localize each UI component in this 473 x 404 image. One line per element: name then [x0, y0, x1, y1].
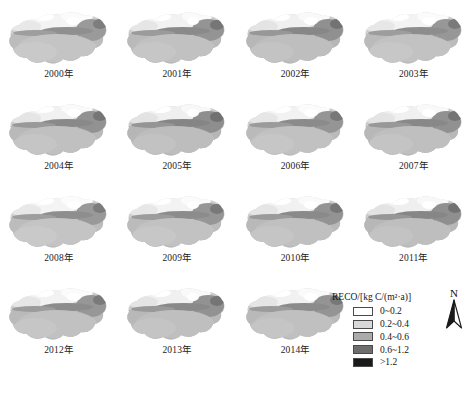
map-thumbnail [5, 184, 113, 252]
legend-label: 0.2~0.4 [380, 319, 409, 329]
map-year-label: 2010年 [281, 253, 311, 264]
map-thumbnail [123, 92, 231, 160]
legend-class-list: 0~0.2 0.2~0.4 0.4~0.6 0.6~1.2 >1.2 [332, 306, 438, 369]
map-panel: 2012年 [0, 276, 118, 368]
map-thumbnail [242, 92, 350, 160]
map-thumbnail [360, 184, 468, 252]
map-panel: 2013年 [118, 276, 236, 368]
map-panel: 2002年 [237, 0, 355, 92]
map-year-label: 2012年 [44, 345, 74, 356]
map-panel: 2009年 [118, 184, 236, 276]
legend-label: 0~0.2 [380, 306, 402, 316]
map-year-label: 2014年 [281, 345, 311, 356]
map-panel: 2007年 [355, 92, 473, 184]
map-panel: 2010年 [237, 184, 355, 276]
legend-swatch-0 [353, 307, 373, 316]
legend-item: 0.6~1.2 [353, 344, 438, 356]
map-thumbnail [242, 184, 350, 252]
north-arrow-label: N [441, 287, 467, 299]
map-year-label: 2004年 [44, 161, 74, 172]
map-year-label: 2002年 [281, 69, 311, 80]
legend-swatch-1 [353, 320, 373, 329]
map-thumbnail [5, 276, 113, 344]
legend-swatch-2 [353, 332, 373, 341]
map-year-label: 2011年 [399, 253, 429, 264]
legend-label: 0.4~0.6 [380, 332, 409, 342]
map-year-label: 2000年 [44, 69, 74, 80]
map-panel: 2005年 [118, 92, 236, 184]
map-thumbnail [5, 0, 113, 68]
legend-item: >1.2 [353, 357, 438, 369]
map-year-label: 2009年 [162, 253, 192, 264]
map-panel: 2011年 [355, 184, 473, 276]
north-arrow: N [441, 287, 467, 329]
map-thumbnail [123, 276, 231, 344]
map-year-label: 2003年 [399, 69, 429, 80]
legend-item: 0.2~0.4 [353, 318, 438, 330]
legend-swatch-3 [353, 345, 373, 354]
map-panel: 2001年 [118, 0, 236, 92]
map-thumbnail [242, 0, 350, 68]
legend-label: >1.2 [380, 357, 397, 367]
map-panel: 2008年 [0, 184, 118, 276]
map-year-label: 2001年 [162, 69, 192, 80]
reco-map-grid-figure: 2000年 [0, 0, 473, 404]
map-thumbnail [360, 0, 468, 68]
map-thumbnail [123, 0, 231, 68]
map-year-label: 2006年 [281, 161, 311, 172]
map-thumbnail [360, 92, 468, 160]
map-legend: RECO/[kg C/(m²·a)] 0~0.2 0.2~0.4 0.4~0.6… [332, 291, 438, 369]
map-thumbnail [123, 184, 231, 252]
map-year-label: 2007年 [399, 161, 429, 172]
map-year-label: 2008年 [44, 253, 74, 264]
map-panel: 2004年 [0, 92, 118, 184]
map-panel: 2006年 [237, 92, 355, 184]
map-panel: 2000年 [0, 0, 118, 92]
map-panel: 2003年 [355, 0, 473, 92]
map-year-label: 2005年 [162, 161, 192, 172]
map-thumbnail [5, 92, 113, 160]
legend-item: 0.4~0.6 [353, 331, 438, 343]
legend-label: 0.6~1.2 [380, 345, 409, 355]
legend-item: 0~0.2 [353, 306, 438, 318]
legend-title: RECO/[kg C/(m²·a)] [332, 291, 438, 303]
north-arrow-icon [445, 299, 463, 329]
map-year-label: 2013年 [162, 345, 192, 356]
legend-swatch-4 [353, 358, 373, 367]
